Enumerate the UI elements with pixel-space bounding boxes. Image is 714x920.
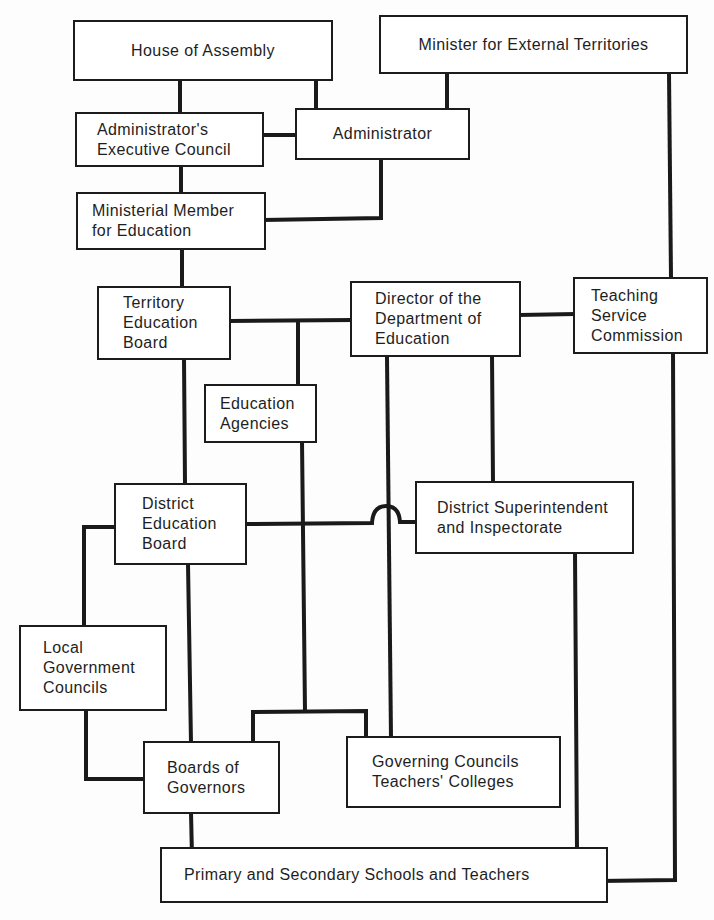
node-label: Primary and Secondary Schools and Teache… bbox=[184, 865, 530, 885]
node-label: District Superintendent and Inspectorate bbox=[437, 498, 608, 538]
node-label: Boards of Governors bbox=[167, 758, 245, 798]
node-governing-councils-teachers-colleges: Governing Councils Teachers' Colleges bbox=[346, 736, 561, 808]
node-local-government-councils: Local Government Councils bbox=[19, 625, 167, 711]
node-director-department-education: Director of the Department of Education bbox=[350, 281, 521, 357]
node-label: Local Government Councils bbox=[43, 638, 135, 698]
node-label: Administrator bbox=[333, 124, 432, 144]
node-label: Governing Councils Teachers' Colleges bbox=[372, 752, 519, 792]
node-label: House of Assembly bbox=[131, 41, 275, 61]
node-minister-external-territories: Minister for External Territories bbox=[379, 15, 688, 74]
node-label: Education Agencies bbox=[220, 394, 295, 434]
node-label: Territory Education Board bbox=[123, 293, 198, 353]
node-label: Administrator's Executive Council bbox=[97, 120, 231, 160]
node-education-agencies: Education Agencies bbox=[204, 384, 317, 443]
node-label: Minister for External Territories bbox=[419, 35, 649, 55]
node-house-of-assembly: House of Assembly bbox=[73, 20, 333, 81]
node-boards-of-governors: Boards of Governors bbox=[143, 741, 280, 814]
node-district-education-board: District Education Board bbox=[114, 483, 247, 565]
node-administrators-executive-council: Administrator's Executive Council bbox=[75, 112, 264, 167]
education-org-chart: House of Assembly Minister for External … bbox=[0, 0, 714, 920]
node-label: District Education Board bbox=[142, 494, 217, 554]
node-teaching-service-commission: Teaching Service Commission bbox=[573, 277, 708, 354]
node-label: Teaching Service Commission bbox=[591, 286, 683, 346]
node-primary-secondary-schools-teachers: Primary and Secondary Schools and Teache… bbox=[160, 847, 608, 903]
node-ministerial-member-education: Ministerial Member for Education bbox=[76, 192, 266, 250]
node-label: Director of the Department of Education bbox=[375, 289, 482, 349]
node-territory-education-board: Territory Education Board bbox=[97, 286, 231, 360]
node-label: Ministerial Member for Education bbox=[92, 201, 234, 241]
node-district-superintendent-inspectorate: District Superintendent and Inspectorate bbox=[415, 481, 634, 554]
node-administrator: Administrator bbox=[295, 108, 470, 160]
